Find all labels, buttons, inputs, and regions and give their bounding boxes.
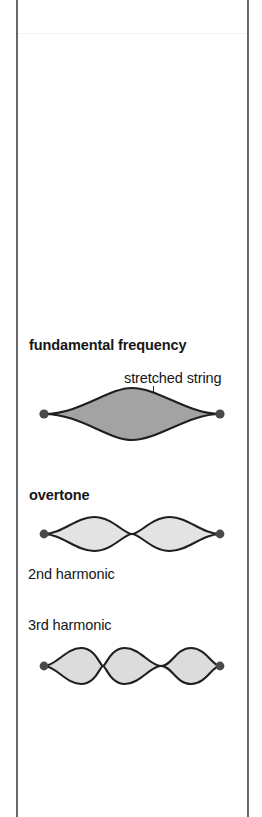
fundamental-wave-diagram xyxy=(0,380,262,452)
third-harmonic-label: 3rd harmonic xyxy=(28,617,111,633)
second-harmonic-lobes xyxy=(44,517,220,551)
figure-page: fundamental frequency stretched string o… xyxy=(0,0,262,817)
node-dot-right xyxy=(216,530,225,539)
fundamental-lobe xyxy=(44,388,220,440)
third-harmonic-lobes xyxy=(44,648,220,684)
node-dot-left xyxy=(39,409,48,418)
overtone-label: overtone xyxy=(29,487,89,503)
second-harmonic-label: 2nd harmonic xyxy=(28,566,115,582)
node-dot-right xyxy=(216,662,225,671)
second-harmonic-wave-diagram xyxy=(0,505,262,563)
node-dot-left xyxy=(40,662,49,671)
node-dot-left xyxy=(40,530,49,539)
fundamental-frequency-label: fundamental frequency xyxy=(29,337,186,353)
node-dot-right xyxy=(215,409,224,418)
figure-content: fundamental frequency stretched string o… xyxy=(0,0,262,817)
third-harmonic-wave-diagram xyxy=(0,637,262,695)
